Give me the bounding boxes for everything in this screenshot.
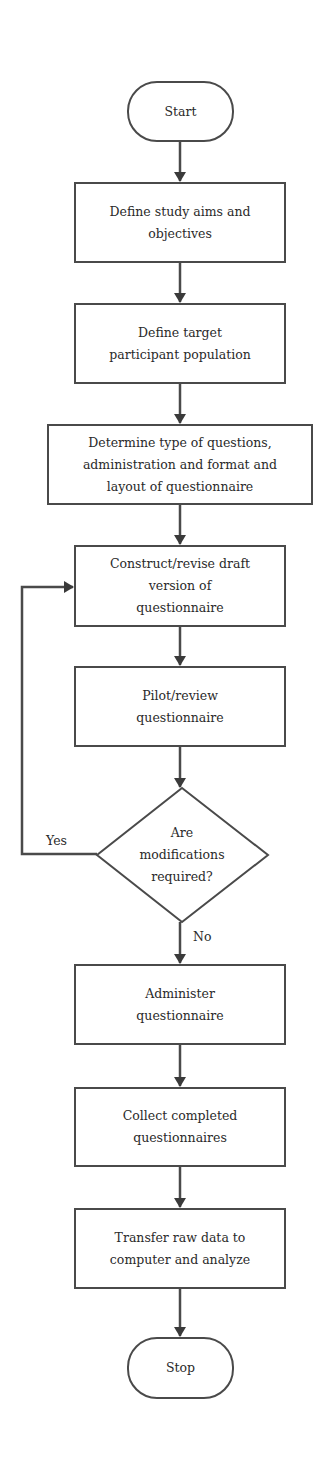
step-pilot-review: Pilot/review questionnaire <box>74 666 286 747</box>
step-determine-question-type: Determine type of questions, administrat… <box>47 424 313 505</box>
step-text-line: Determine type of questions, <box>88 432 272 454</box>
step-collect: Collect completed questionnaires <box>74 1087 286 1167</box>
step-text-line: Construct/revise draft <box>110 553 250 575</box>
decision-text-line: Are <box>112 822 252 844</box>
start-terminal: Start <box>127 81 234 142</box>
step-text-line: Collect completed <box>123 1105 238 1127</box>
decision-modifications-required: Are modifications required? <box>112 822 252 888</box>
decision-text-line: required? <box>112 866 252 888</box>
start-label: Start <box>164 101 196 123</box>
step-text-line: questionnaire <box>136 597 223 619</box>
edge-label-yes: Yes <box>46 833 67 848</box>
step-text-line: version of <box>149 575 212 597</box>
questionnaire-flowchart: Start Define study aims and objectives D… <box>0 0 330 1461</box>
step-text-line: Define target <box>138 322 222 344</box>
step-define-aims: Define study aims and objectives <box>74 182 286 263</box>
step-text-line: questionnaire <box>136 707 223 729</box>
step-define-population: Define target participant population <box>74 303 286 384</box>
step-text-line: Pilot/review <box>142 685 218 707</box>
step-construct-draft: Construct/revise draft version of questi… <box>74 545 286 627</box>
step-transfer-analyze: Transfer raw data to computer and analyz… <box>74 1208 286 1289</box>
step-text-line: Define study aims and <box>110 201 251 223</box>
stop-label: Stop <box>166 1357 195 1379</box>
step-text-line: computer and analyze <box>110 1249 250 1271</box>
step-text-line: Administer <box>145 983 215 1005</box>
step-text-line: objectives <box>148 223 212 245</box>
decision-text-line: modifications <box>112 844 252 866</box>
edge-label-no: No <box>193 929 211 944</box>
step-text-line: administration and format and <box>83 454 277 476</box>
step-text-line: questionnaires <box>133 1127 227 1149</box>
step-text-line: questionnaire <box>136 1005 223 1027</box>
stop-terminal: Stop <box>127 1337 234 1399</box>
step-administer: Administer questionnaire <box>74 964 286 1045</box>
step-text-line: participant population <box>109 344 251 366</box>
step-text-line: Transfer raw data to <box>115 1227 246 1249</box>
step-text-line: layout of questionnaire <box>107 476 254 498</box>
